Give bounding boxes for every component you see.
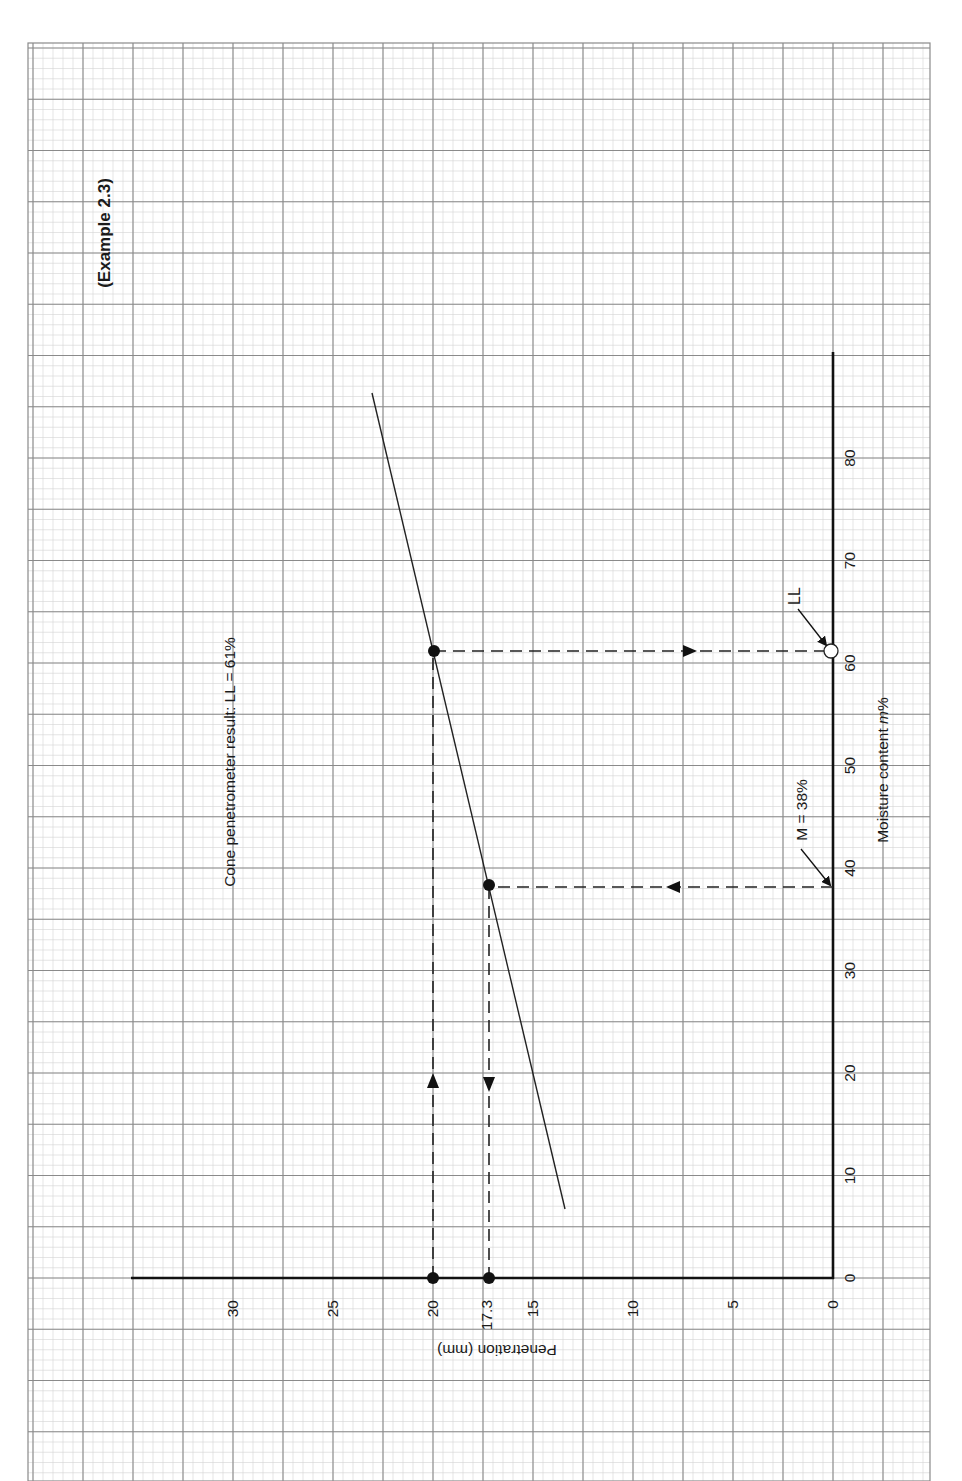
arrow-up-icon [427, 1073, 439, 1088]
penetration-tick-label: 25 [324, 1300, 341, 1317]
penetration-tick-label: 10 [624, 1300, 641, 1318]
moisture-tick-label: 50 [841, 757, 858, 775]
ll-marker-label: LL [786, 587, 803, 605]
y-axis-label: Penetration (mm) [437, 1342, 557, 1359]
moisture-tick-label: 70 [841, 552, 858, 570]
penetration-tick-label: 15 [524, 1300, 541, 1317]
ll-pointer-arrow [798, 609, 826, 645]
m-marker-label: M = 38% [793, 779, 810, 841]
moisture-tick-label: 60 [841, 654, 858, 672]
moisture-tick-label: 30 [841, 962, 858, 980]
moisture-tick-label: 80 [841, 449, 858, 467]
point-38-17-3 [483, 879, 495, 891]
moisture-tick-label: 0 [841, 1273, 858, 1282]
penetration-tick-label: 17.3 [478, 1300, 495, 1330]
m-pointer-arrow [801, 849, 830, 885]
result-label: Cone penetrometer result: LL = 61% [221, 637, 238, 887]
point-61-20 [428, 645, 440, 657]
fit-line [372, 393, 565, 1209]
penetration-tick-label: 20 [424, 1300, 441, 1318]
penetration-tick-label: 30 [224, 1300, 241, 1318]
moisture-tick-label: 20 [841, 1064, 858, 1082]
x-axis-label: Moisture content m% [874, 697, 891, 843]
graph-paper-grid [28, 43, 930, 1481]
chart-canvas: (Example 2.3) Cone penetrometer result: … [0, 0, 962, 1481]
axis-point-17-3 [483, 1272, 495, 1284]
example-label: (Example 2.3) [95, 178, 114, 288]
arrow-right-icon [683, 645, 697, 657]
moisture-tick-labels: 01020304050607080 [841, 449, 858, 1282]
penetration-tick-label: 0 [824, 1300, 841, 1309]
penetration-tick-label: 5 [724, 1300, 741, 1309]
moisture-tick-label: 40 [841, 859, 858, 877]
axis-point-20 [427, 1272, 439, 1284]
moisture-tick-label: 10 [841, 1167, 858, 1185]
ll-open-circle [824, 644, 838, 658]
